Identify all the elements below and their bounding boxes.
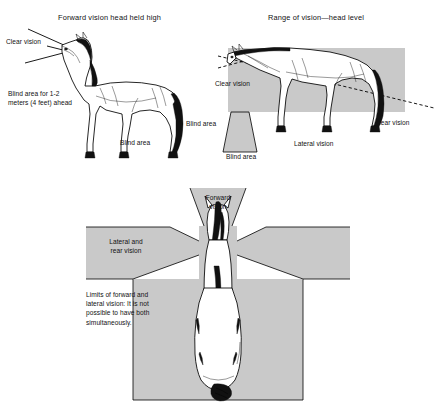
top-view-vision-illustration [0,178,436,418]
label-limits-line1: Limits of forward and [86,291,148,298]
label-lateral-rear-line1: Lateral and [109,238,143,245]
label-clear-vision-left: Clear vision [6,38,41,47]
label-rear-vision: Rear vision [376,119,410,128]
label-blind-area-front-line2: meters (4 feet) ahead [8,99,72,106]
panel-forward-and-lateral-vision-top-view: Forward vision Lateral and rear vision L… [0,178,436,418]
panel-forward-vision-head-high: Forward vision head held high [0,0,218,178]
label-blind-area-rear: Blind area [186,120,216,129]
label-limits-line2: lateral vision: It is not [86,300,149,307]
label-forward-vision: Forward vision [192,194,244,211]
label-limits-of-vision: Limits of forward and lateral vision: It… [86,290,184,327]
label-limits-line4: simultaneously. [86,319,132,326]
label-lateral-rear-line2: rear vision [111,247,142,254]
label-blind-area-front-line1: Blind area for 1-2 [8,90,59,97]
label-lateral-and-rear-vision: Lateral and rear vision [90,238,162,255]
range-of-vision-illustration [218,0,436,178]
label-clear-vision-right: Clear vision [215,80,250,89]
blind-area-cone [223,112,257,152]
label-limits-line3: possible to have both [86,309,149,316]
label-forward-vision-line2: vision [209,203,226,210]
label-forward-vision-line1: Forward [206,194,231,201]
label-blind-area-cone: Blind area [226,153,256,162]
label-blind-area-under: Blind area [120,139,150,148]
panel-range-of-vision-head-level: Range of vision—head level [218,0,436,178]
forward-vision-illustration [0,0,218,178]
label-blind-area-front: Blind area for 1-2 meters (4 feet) ahead [8,90,98,107]
label-lateral-vision: Lateral vision [294,140,334,149]
